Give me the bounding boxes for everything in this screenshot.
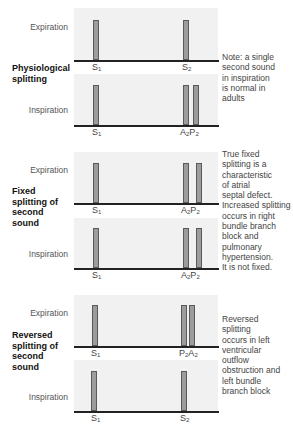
s1-label: S1 [92, 127, 101, 137]
a2-bar [189, 305, 195, 346]
s2-bar [183, 20, 189, 60]
a2-bar [183, 85, 189, 125]
inspiration-label: Inspiration [29, 392, 68, 402]
s1-label: S1 [92, 270, 101, 280]
s1-bar [92, 305, 98, 346]
p2-bar [181, 305, 187, 346]
s1-bar [93, 163, 99, 203]
a2p2-label: A2P2 [180, 127, 199, 137]
expiration-label: Expiration [30, 308, 68, 318]
a2-bar [183, 228, 189, 268]
a2p2-label: A2P2 [181, 205, 200, 215]
inspiration-label: Inspiration [29, 105, 68, 115]
section-title: Physiological splitting [12, 63, 70, 84]
s1-bar [93, 228, 99, 268]
section-note: Reversed splitting occurs in left ventri… [222, 314, 293, 396]
expiration-label: Expiration [30, 165, 68, 175]
p2-bar [196, 228, 202, 268]
s1-bar [91, 371, 97, 411]
section-title: Fixed splitting of second sound [12, 186, 58, 228]
s2-bar [181, 371, 187, 411]
s2-label: S2 [182, 62, 191, 72]
s1-bar [93, 85, 99, 125]
a2p2-label: A2P2 [181, 270, 200, 280]
section-note: True fixed splitting is a characteristic… [222, 149, 293, 273]
inspiration-label: Inspiration [29, 249, 68, 259]
s1-label: S1 [92, 62, 101, 72]
s1-label: S1 [91, 348, 100, 358]
s2-label: S2 [180, 413, 189, 423]
p2a2-label: P2A2 [179, 348, 198, 358]
section-title: Reversed splitting of second sound [12, 330, 58, 372]
a2-bar [183, 163, 189, 203]
p2-bar [196, 163, 202, 203]
s1-bar [93, 20, 99, 60]
p2-bar [193, 85, 199, 125]
section-note: Note: a single second sound in inspirati… [222, 52, 293, 103]
expiration-label: Expiration [30, 22, 68, 32]
s1-label: S1 [91, 413, 100, 423]
s1-label: S1 [92, 205, 101, 215]
